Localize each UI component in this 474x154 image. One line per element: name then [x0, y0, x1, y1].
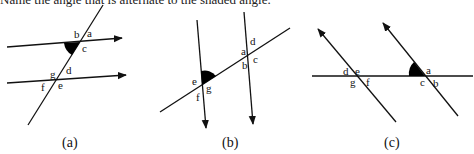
label-f: f [41, 81, 45, 93]
transversal-line [160, 28, 290, 112]
right-parallel-line [383, 23, 458, 116]
label-e: e [192, 75, 197, 87]
label-a: a [241, 45, 246, 57]
label-e: e [58, 79, 63, 91]
label-c: c [420, 76, 425, 88]
label-f: f [196, 91, 200, 103]
label-c: c [82, 42, 87, 54]
label-e: e [355, 65, 360, 77]
lower-parallel-line [7, 75, 126, 83]
label-g: g [350, 76, 356, 88]
caption-b: (b) [222, 135, 239, 151]
label-b: b [242, 59, 248, 71]
diagram-c: d e g f a c b (c) [312, 23, 473, 151]
label-b: b [74, 28, 80, 40]
label-b: b [433, 77, 439, 89]
diagram-a: b a c g d f e (a) [7, 5, 126, 151]
label-g: g [206, 82, 212, 94]
label-d: d [66, 64, 72, 76]
label-c: c [253, 53, 258, 65]
label-g: g [50, 68, 56, 80]
label-d: d [250, 35, 256, 47]
shaded-angle [64, 42, 80, 55]
label-a: a [426, 64, 431, 76]
label-f: f [366, 76, 370, 88]
caption-a: (a) [62, 135, 78, 151]
diagram-b: e g f a d b c (b) [160, 12, 290, 151]
upper-parallel-line [7, 38, 122, 47]
label-d: d [343, 65, 349, 77]
caption-c: (c) [384, 135, 400, 151]
angle-diagrams: b a c g d f e (a) e g f a d b c (b) d e … [0, 0, 474, 154]
label-a: a [87, 27, 92, 39]
